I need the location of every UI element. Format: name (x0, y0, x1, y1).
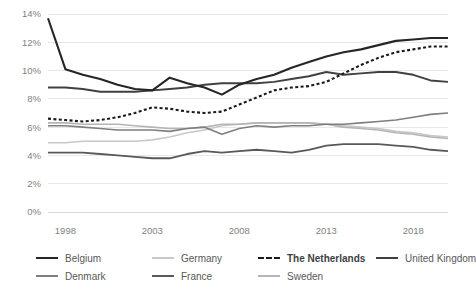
legend-item-denmark[interactable]: Denmark (36, 271, 106, 282)
y-axis-tick-label: 12% (22, 37, 42, 48)
legend-swatch-icon (152, 275, 174, 277)
legend-label: Denmark (65, 271, 106, 282)
legend-label: Germany (181, 253, 222, 264)
legend-label: Belgium (65, 253, 101, 264)
chart-plot-area: 0%2%4%6%8%10%12%14%19982003200820132018 (0, 0, 458, 246)
x-axis-tick-label: 2018 (403, 225, 424, 236)
y-axis-tick-label: 6% (27, 122, 41, 133)
y-axis-tick-label: 8% (27, 93, 41, 104)
legend-item-sweden[interactable]: Sweden (258, 271, 323, 282)
y-axis-tick-label: 14% (22, 8, 42, 19)
x-axis-tick-label: 2008 (229, 225, 250, 236)
legend-item-germany[interactable]: Germany (152, 253, 222, 264)
legend-item-united-kingdom[interactable]: United Kingdom (376, 253, 476, 264)
legend-swatch-icon (36, 257, 58, 259)
y-axis-tick-label: 4% (27, 150, 41, 161)
y-axis-tick-label: 0% (27, 206, 41, 217)
legend-swatch-icon (376, 257, 398, 259)
legend-row: DenmarkFranceSweden (36, 267, 450, 285)
legend-swatch-icon (36, 275, 58, 277)
series-line-france (48, 144, 448, 158)
legend-swatch-icon (152, 257, 174, 259)
chart-legend: BelgiumGermanyThe NetherlandsUnited King… (36, 249, 450, 285)
legend-item-france[interactable]: France (152, 271, 212, 282)
x-axis-tick-label: 2013 (316, 225, 337, 236)
x-axis-tick-label: 1998 (55, 225, 76, 236)
legend-label: France (181, 271, 212, 282)
x-axis-tick-label: 2003 (142, 225, 163, 236)
legend-label: United Kingdom (405, 253, 476, 264)
legend-label: Sweden (287, 271, 323, 282)
y-axis-tick-label: 10% (22, 65, 42, 76)
legend-row: BelgiumGermanyThe NetherlandsUnited King… (36, 249, 450, 267)
legend-item-belgium[interactable]: Belgium (36, 253, 101, 264)
legend-swatch-icon (258, 275, 280, 277)
series-line-germany (48, 123, 448, 143)
legend-label: The Netherlands (287, 253, 365, 264)
y-axis-tick-label: 2% (27, 178, 41, 189)
legend-swatch-icon (258, 257, 280, 259)
legend-item-the-netherlands[interactable]: The Netherlands (258, 253, 365, 264)
